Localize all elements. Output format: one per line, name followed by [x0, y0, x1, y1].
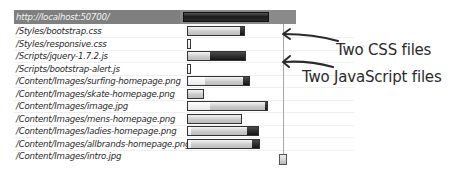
- request-row[interactable]: /Styles/bootstrap.css: [14, 25, 314, 37]
- request-row[interactable]: /Styles/responsive.css: [14, 38, 314, 50]
- annotation-js: Two JavaScript files: [302, 68, 442, 86]
- request-path: /Content/Images/surfing-homepage.png: [16, 75, 181, 87]
- page-url: http://localhost:50700/: [16, 10, 109, 24]
- timing-bar: [187, 64, 191, 74]
- timing-bar: [279, 154, 287, 165]
- request-row[interactable]: /Scripts/bootstrap-alert.js: [14, 63, 314, 75]
- page-timing-bar: [183, 12, 269, 22]
- timing-bar: [187, 89, 204, 99]
- request-path: /Content/Images/mens-homepage.png: [16, 113, 175, 125]
- request-row[interactable]: /Content/Images/intro.jpg: [14, 150, 314, 162]
- request-path: /Styles/bootstrap.css: [16, 25, 102, 37]
- request-row[interactable]: /Scripts/jquery-1.7.2.js: [14, 50, 314, 62]
- arrow-icon: [280, 28, 340, 48]
- timing-bar: [187, 51, 246, 61]
- request-path: /Content/Images/intro.jpg: [16, 150, 121, 162]
- request-row[interactable]: /Content/Images/ladies-homepage.png: [14, 125, 314, 137]
- page-request-row[interactable]: http://localhost:50700/: [14, 10, 180, 24]
- request-path: /Content/Images/image.jpg: [16, 100, 128, 112]
- request-row[interactable]: /Content/Images/skate-homepage.png: [14, 88, 314, 100]
- request-row[interactable]: /Content/Images/mens-homepage.png: [14, 113, 314, 125]
- timing-bar: [187, 139, 260, 149]
- request-path: /Content/Images/skate-homepage.png: [16, 88, 175, 100]
- timing-bar: [187, 126, 259, 136]
- annotation-css: Two CSS files: [336, 41, 431, 59]
- timing-bar: [187, 39, 191, 49]
- request-row[interactable]: /Content/Images/allbrands-homepage.png: [14, 138, 314, 150]
- request-path: /Styles/responsive.css: [16, 38, 107, 50]
- request-path: /Scripts/bootstrap-alert.js: [16, 63, 120, 75]
- timing-bar: [187, 114, 242, 124]
- timing-bar: [187, 26, 245, 36]
- request-path: /Content/Images/allbrands-homepage.png: [16, 138, 190, 150]
- request-row[interactable]: /Content/Images/image.jpg: [14, 100, 314, 112]
- request-row[interactable]: /Content/Images/surfing-homepage.png: [14, 75, 314, 87]
- request-path: /Content/Images/ladies-homepage.png: [16, 125, 177, 137]
- timing-bar: [187, 76, 250, 86]
- timing-bar: [187, 101, 268, 111]
- request-path: /Scripts/jquery-1.7.2.js: [16, 50, 108, 62]
